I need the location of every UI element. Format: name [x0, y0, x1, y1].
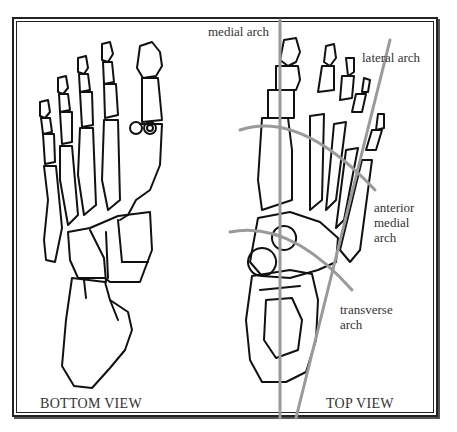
- bottom-view-foot: [40, 42, 162, 388]
- label-medial-arch: medial arch: [208, 24, 269, 39]
- label-anterior-medial-arch: anterior medial arch: [374, 200, 414, 245]
- label-lateral-arch: lateral arch: [362, 50, 420, 65]
- label-transverse-arch: transverse arch: [340, 302, 393, 332]
- bottom-view-caption: BOTTOM VIEW: [40, 396, 142, 412]
- top-view-caption: TOP VIEW: [326, 396, 394, 412]
